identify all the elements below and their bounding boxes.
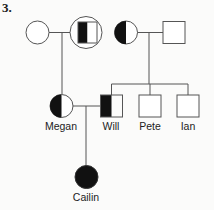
male-carrier-circled-symbol — [70, 17, 102, 49]
label-cailin: Cailin — [73, 191, 99, 203]
label-pete: Pete — [139, 120, 161, 132]
female-unaffected-symbol — [26, 21, 49, 44]
megan-symbol — [50, 95, 73, 118]
cailin-symbol — [75, 166, 98, 189]
will-symbol — [101, 95, 123, 117]
label-megan: Megan — [45, 120, 77, 132]
female-half-filled-symbol — [115, 21, 138, 44]
label-ian: Ian — [181, 120, 196, 132]
pedigree-diagram — [0, 0, 214, 210]
label-will: Will — [103, 120, 120, 132]
male-unaffected-symbol — [163, 22, 185, 44]
ian-symbol — [177, 95, 199, 117]
pete-symbol — [139, 95, 161, 117]
